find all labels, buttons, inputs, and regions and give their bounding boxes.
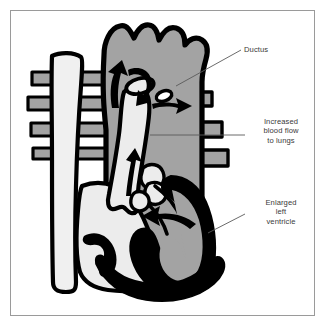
callout-label-left-ventricle: Enlarged left ventricle: [248, 198, 314, 226]
callout-label-blood-flow: Increased blood flow to lungs: [248, 117, 314, 145]
callout-label-ductus: Ductus: [244, 45, 304, 54]
heart-diagram-figure: Ductus Increased blood flow to lungs Enl…: [0, 0, 327, 328]
